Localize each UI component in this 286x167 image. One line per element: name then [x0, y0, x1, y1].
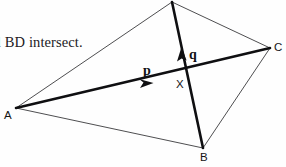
vector-p-arrowhead — [139, 79, 154, 88]
edge-D-C — [172, 2, 270, 48]
edge-A-D — [16, 2, 172, 108]
caption-text: l BD intersect. — [0, 34, 83, 51]
vector-label-p: p — [143, 64, 151, 78]
diagonal-B-D — [172, 2, 203, 148]
edge-C-B — [203, 48, 270, 148]
intersection-label-x: X — [176, 79, 184, 91]
geometry-figure: l BD intersect. A B C X p q — [0, 0, 286, 167]
diagonal-A-C — [16, 48, 270, 108]
edge-B-A — [16, 108, 203, 148]
vector-q-arrowhead — [177, 47, 187, 62]
vertex-label-c: C — [274, 42, 282, 54]
vector-label-q: q — [189, 48, 197, 62]
figure-canvas — [0, 0, 286, 167]
vertex-label-a: A — [4, 110, 12, 122]
vertex-label-b: B — [200, 152, 208, 164]
